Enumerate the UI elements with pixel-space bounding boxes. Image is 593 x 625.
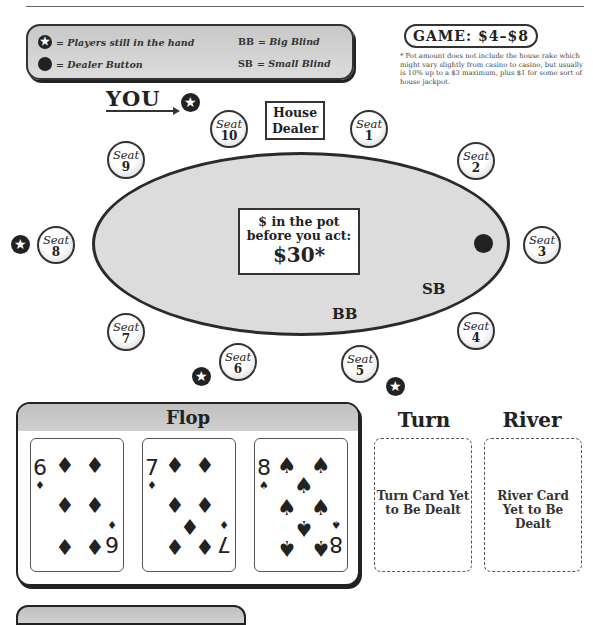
spade-icon: ♠ [331,518,341,531]
diamond-icon: ♦ [165,495,185,517]
pot-box: $ in the pot before you act: $30* [238,208,360,275]
seat-5[interactable]: Seat5 [341,345,379,383]
legend-bb-abbr: BB [238,36,254,47]
spade-icon: ♠ [311,455,331,477]
card-rank: 8 [329,533,343,555]
seat-4[interactable]: Seat4 [457,312,495,350]
spade-icon: ♠ [311,537,331,559]
river-title: River [482,408,582,432]
seat-2[interactable]: Seat2 [457,142,495,180]
seat-6[interactable]: Seat6 [219,343,257,381]
flop-card-7-diamonds: 7 ♦ ♦ ♦ ♦ ♦ ♦ ♦ ♦ ♦ 7 [142,438,236,572]
star-icon: ★ [11,235,30,254]
seat-number: 2 [459,162,493,174]
seat-10[interactable]: Seat10 [210,110,248,148]
next-panel-header [16,605,246,625]
card-rank: 7 [217,533,231,555]
spade-icon: ♠ [294,475,314,497]
star-icon: ★ [38,35,52,49]
house-dealer-box: House Dealer [265,101,325,140]
you-label: YOU [106,86,161,111]
seat-9[interactable]: Seat9 [107,141,145,179]
small-blind-marker: SB [422,280,446,298]
card-rank: 8 [257,457,271,479]
diamond-icon: ♦ [107,518,117,531]
seat-number: 7 [109,333,143,345]
seat-number: 6 [221,363,255,375]
you-arrow-icon [106,110,174,112]
card-rank: 6 [33,457,47,479]
diamond-icon: ♦ [165,455,185,477]
pot-amount: $30* [240,243,358,267]
legend-panel: ★ = Players still in the hand = Dealer B… [26,24,354,80]
legend-bb-label: = Big Blind [258,36,320,47]
seat-7[interactable]: Seat7 [107,313,145,351]
flop-title: Flop [18,404,358,431]
seat-number: 10 [212,130,246,142]
game-badge: GAME: $4–$8 [404,24,538,48]
card-rank: 7 [145,457,159,479]
diamond-icon: ♦ [195,537,215,559]
diamond-icon: ♦ [55,537,75,559]
turn-title: Turn [374,408,474,432]
diamond-icon: ♦ [85,537,105,559]
dealer-dot-icon [38,57,52,71]
flop-panel: Flop 6 ♦ ♦ ♦ ♦ ♦ ♦ ♦ ♦ 6 7 ♦ ♦ ♦ ♦ ♦ ♦ ♦… [16,402,360,586]
diamond-icon: ♦ [195,495,215,517]
seat-8[interactable]: Seat8 [37,226,75,264]
turn-card-placeholder: Turn Card Yet to Be Dealt [374,438,472,572]
seat-number: 4 [459,332,493,344]
legend-sb-abbr: SB [238,58,253,69]
legend-sb-label: = Small Blind [257,58,331,69]
diamond-icon: ♦ [219,518,229,531]
diamond-icon: ♦ [55,455,75,477]
diamond-icon: ♦ [195,455,215,477]
diamond-icon: ♦ [55,495,75,517]
seat-number: 9 [109,161,143,173]
star-icon: ★ [181,93,200,112]
seat-3[interactable]: Seat3 [523,226,561,264]
spade-icon: ♠ [311,497,331,519]
river-card-placeholder: River Card Yet to Be Dealt [484,438,582,572]
dealer-line1: House [267,105,323,121]
diamond-icon: ♦ [165,537,185,559]
diamond-icon: ♦ [35,479,45,492]
big-blind-marker: BB [332,305,357,323]
seat-number: 1 [352,130,386,142]
dealer-line2: Dealer [267,121,323,137]
flop-card-8-spades: 8 ♠ ♠ ♠ ♠ ♠ ♠ ♠ ♠ ♠ ♠ 8 [254,438,348,572]
seat-number: 3 [525,246,559,258]
star-icon: ★ [386,377,405,396]
pot-line2: before you act: [240,229,358,243]
diamond-icon: ♦ [147,479,157,492]
legend-star-label: = Players still in the hand [56,37,194,48]
flop-card-6-diamonds: 6 ♦ ♦ ♦ ♦ ♦ ♦ ♦ ♦ 6 [30,438,124,572]
diamond-icon: ♦ [85,455,105,477]
pot-line1: $ in the pot [240,215,358,229]
legend-dot-label: = Dealer Button [56,59,143,70]
diamond-icon: ♦ [85,495,105,517]
spade-icon: ♠ [277,537,297,559]
card-rank: 6 [105,533,119,555]
pot-footnote: * Pot amount does not include the house … [400,52,588,86]
top-divider [26,6,584,7]
spade-icon: ♠ [259,479,269,492]
seat-number: 5 [343,365,377,377]
dealer-button-icon [474,234,493,253]
seat-1[interactable]: Seat1 [350,110,388,148]
seat-number: 8 [39,246,73,258]
star-icon: ★ [192,367,211,386]
